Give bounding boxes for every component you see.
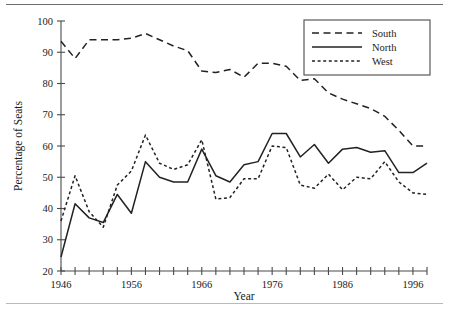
legend-label-north: North <box>372 42 397 53</box>
y-tick-label: 60 <box>43 141 54 152</box>
y-tick-label: 80 <box>43 78 54 89</box>
y-axis-tick-labels: 2030405060708090100 <box>37 16 53 277</box>
y-tick-label: 20 <box>43 266 54 277</box>
x-tick-label: 1946 <box>51 279 72 290</box>
series-line-west <box>61 135 427 227</box>
y-tick-label: 70 <box>43 109 54 120</box>
y-tick-label: 100 <box>37 16 53 27</box>
y-tick-label: 90 <box>43 47 54 58</box>
y-tick-label: 30 <box>43 234 54 245</box>
x-tick-label: 1986 <box>332 279 353 290</box>
x-tick-label: 1966 <box>191 279 212 290</box>
x-tick-label: 1996 <box>402 279 423 290</box>
line-chart: 2030405060708090100 Percentage of Seats … <box>0 0 449 315</box>
legend-label-west: West <box>372 56 393 67</box>
y-axis: 2030405060708090100 Percentage of Seats <box>12 16 65 277</box>
x-axis-title: Year <box>233 290 254 302</box>
series-line-north <box>61 134 427 257</box>
y-tick-label: 40 <box>43 203 54 214</box>
y-tick-label: 50 <box>43 172 54 183</box>
x-axis-tick-labels: 194619561966197619861996 <box>51 279 424 290</box>
x-axis: 194619561966197619861996 Year <box>51 267 428 302</box>
x-tick-label: 1956 <box>121 279 142 290</box>
legend: South North West <box>304 20 430 75</box>
legend-label-south: South <box>372 28 397 39</box>
figure-container: 2030405060708090100 Percentage of Seats … <box>0 0 449 315</box>
x-tick-label: 1976 <box>262 279 283 290</box>
y-axis-title: Percentage of Seats <box>12 100 25 191</box>
